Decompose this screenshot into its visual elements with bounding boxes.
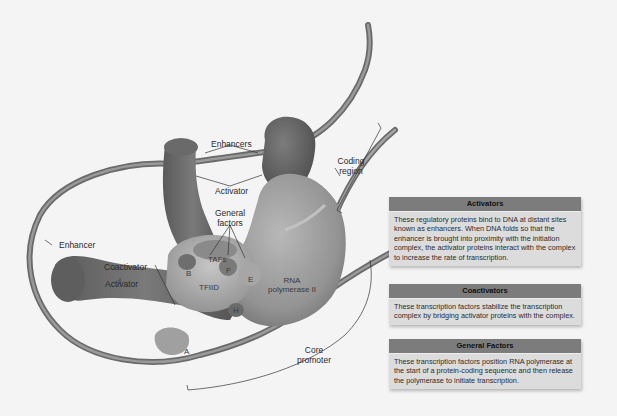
label-general-factors-line2: factors — [210, 218, 250, 228]
label-rna-polymerase-line2: polymerase II — [267, 285, 317, 294]
label-general-factors: General factors — [210, 208, 250, 228]
label-general-factors-line1: General — [210, 208, 250, 218]
label-factor-a: A — [184, 347, 189, 356]
label-rna-polymerase-line1: RNA — [267, 276, 317, 285]
label-coding-region-line2: region — [334, 166, 368, 176]
label-core-promoter-line2: promoter — [292, 355, 336, 365]
label-activator-top: Activator — [215, 186, 248, 196]
info-box-title: Coactivators — [389, 284, 581, 299]
label-tfiid: TFIID — [199, 283, 219, 292]
label-coding-region: Coding region — [334, 156, 368, 176]
label-core-promoter: Core promoter — [292, 345, 336, 365]
info-box-text: These transcription factors position RNA… — [389, 354, 581, 389]
label-core-promoter-line1: Core — [292, 345, 336, 355]
label-enhancers: Enhancers — [211, 139, 252, 149]
info-box-general-factors: General Factors These transcription fact… — [389, 339, 581, 389]
label-activator-left: Activator — [105, 279, 138, 289]
info-box-text: These transcription factors stabilize th… — [389, 299, 581, 325]
info-box-text: These regulatory proteins bind to DNA at… — [389, 212, 581, 266]
label-coactivator: Coactivator — [104, 262, 147, 272]
label-coding-region-line1: Coding — [334, 156, 368, 166]
label-factor-e: E — [248, 275, 253, 284]
info-box-title: Activators — [389, 197, 581, 212]
info-box-activators: Activators These regulatory proteins bin… — [389, 197, 581, 266]
label-enhancer: Enhancer — [59, 240, 95, 250]
label-rna-polymerase: RNA polymerase II — [267, 276, 317, 294]
label-factor-b: B — [186, 269, 191, 278]
info-box-coactivators: Coactivators These transcription factors… — [389, 284, 581, 325]
info-box-title: General Factors — [389, 339, 581, 354]
label-factor-h: H — [233, 306, 239, 315]
label-factor-f: F — [226, 266, 231, 275]
label-tafs: TAFs — [208, 255, 227, 264]
